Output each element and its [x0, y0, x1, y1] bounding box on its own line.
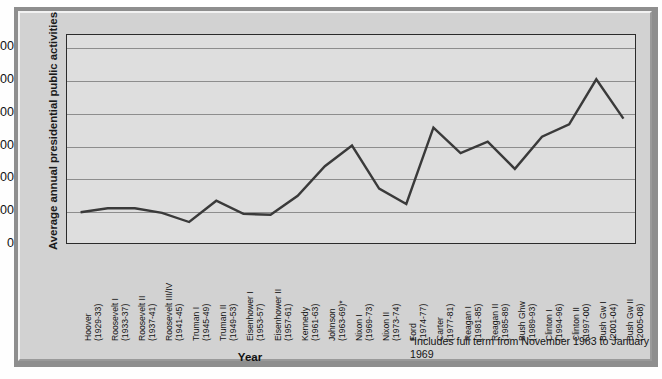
x-tick-label-years: (1973-74) [392, 304, 402, 341]
x-tick-label-name: Roosevelt II [137, 296, 147, 341]
y-axis-title: Average annual presidential public activ… [47, 6, 59, 256]
x-tick-label: Roosevelt I(1933-37) [111, 298, 130, 341]
x-tick-label: Eisenhower II(1957-61) [274, 289, 293, 341]
x-tick-label: Roosevelt III/IV(1941-45) [165, 283, 184, 341]
x-tick-label-years: (1929-33) [93, 304, 103, 341]
x-tick-label-years: (1937-41) [147, 296, 157, 341]
x-tick-label-name: Nixon I [354, 314, 364, 341]
x-axis-title: Year [170, 351, 330, 363]
x-tick-label-years: (1933-37) [120, 298, 130, 341]
y-tick-label: 0 [0, 236, 14, 250]
y-tick-label: 100 [0, 203, 14, 217]
x-tick-label-years: (1949-53) [229, 304, 239, 341]
chart-figure: Average annual presidential public activ… [0, 0, 662, 379]
data-line-svg [67, 35, 637, 245]
x-tick-label-name: Roosevelt III/IV [164, 283, 174, 341]
x-tick-label-years: (1963-69)* [337, 300, 347, 341]
x-tick-label-name: Eisenhower I [245, 291, 255, 341]
x-tick-label-name: Truman I [191, 307, 201, 341]
x-tick-label: Kennedy(1961-63) [301, 304, 320, 341]
chart-footnote: *Includes full term from November 1963 t… [410, 335, 650, 360]
y-tick-label: 200 [0, 170, 14, 184]
x-tick-label-name: Truman II [218, 305, 228, 341]
y-tick-label: 300 [0, 138, 14, 152]
x-tick-label-name: Hoover [83, 313, 93, 341]
x-tick-label: Hoover(1929-33) [84, 304, 103, 341]
x-tick-label-name: Johnson [327, 309, 337, 342]
chart-panel: Average annual presidential public activ… [18, 11, 652, 361]
x-tick-label-name: Roosevelt I [110, 298, 120, 341]
x-tick-label-years: (1961-63) [310, 304, 320, 341]
x-tick-label: Truman II(1949-53) [219, 304, 238, 341]
x-axis-tick-labels: Hoover(1929-33)Roosevelt I(1933-37)Roose… [66, 247, 636, 343]
x-tick-label-years: (1953-57) [256, 291, 266, 341]
x-tick-label: Roosevelt II(1937-41) [138, 296, 157, 341]
x-tick-label: Nixon I(1969-73) [355, 304, 374, 341]
series-line [81, 79, 624, 222]
x-tick-label: Nixon II(1973-74) [382, 304, 401, 341]
x-tick-label-years: (1957-61) [283, 289, 293, 341]
y-tick-label: 600 [0, 39, 14, 53]
x-tick-label-years: (1941-45) [175, 283, 185, 341]
y-tick-label: 400 [0, 105, 14, 119]
x-tick-label-name: Eisenhower II [273, 289, 283, 341]
y-tick-label: 500 [0, 72, 14, 86]
x-tick-label-name: Nixon II [381, 312, 391, 341]
x-tick-label: Eisenhower I(1953-57) [246, 291, 265, 341]
plot-area [66, 34, 636, 244]
x-tick-label-years: (1969-73) [365, 304, 375, 341]
x-tick-label: Johnson(1963-69)* [328, 300, 347, 341]
x-tick-label: Truman I(1945-49) [192, 304, 211, 341]
x-tick-label-name: Kennedy [300, 307, 310, 341]
x-tick-label-years: (1945-49) [202, 304, 212, 341]
